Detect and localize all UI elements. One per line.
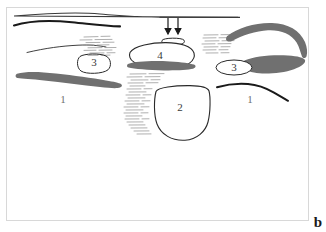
figure-panel: 3 1 4 xyxy=(0,0,326,232)
arc-blob-right xyxy=(226,23,307,58)
arrow-head-1 xyxy=(165,29,171,35)
blob-left xyxy=(16,72,122,88)
muscle-line-left xyxy=(27,45,106,52)
right-structure-label: 1 xyxy=(247,93,253,105)
bladder-center-label: 2 xyxy=(177,101,183,113)
probe-arrows xyxy=(165,18,181,34)
fascia-line-left xyxy=(14,21,120,26)
oval-center-label: 4 xyxy=(157,49,163,61)
bladder-center[interactable] xyxy=(154,86,210,141)
nodule-left-label: 3 xyxy=(91,56,97,68)
anatomical-diagram: 3 1 4 xyxy=(0,0,326,232)
arrow-head-2 xyxy=(175,29,181,35)
panel-letter: b xyxy=(314,215,322,230)
lens-blob-right xyxy=(242,55,305,73)
left-structure-label: 1 xyxy=(60,93,66,105)
nodule-right-label: 3 xyxy=(231,61,237,73)
